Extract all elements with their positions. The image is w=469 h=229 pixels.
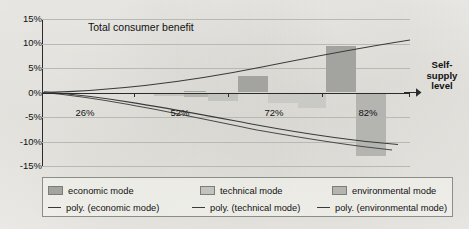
legend-label: technical mode: [220, 186, 283, 196]
legend-line-icon: [48, 204, 61, 211]
gridline: [42, 166, 410, 167]
legend-item-technical-mode[interactable]: technical mode: [200, 182, 332, 199]
legend-row-trendlines: poly. (economic mode) poly. (technical m…: [48, 199, 447, 216]
legend-label: poly. (economic mode): [66, 203, 159, 213]
y-tick-label: -15%: [2, 161, 42, 171]
x-axis-tick: [134, 93, 135, 97]
legend-item-poly-economic-mode[interactable]: poly. (economic mode): [48, 199, 192, 216]
axis-title-line-3: level: [417, 81, 467, 92]
legend-label: environmental mode: [352, 186, 436, 196]
x-tick-label-72: 72%: [264, 108, 283, 118]
y-tick-label: 10%: [2, 38, 42, 48]
x-axis-tick: [322, 93, 323, 97]
chart-title: Total consumer benefit: [88, 22, 194, 33]
plot-area: Total consumer benefit: [42, 19, 410, 166]
legend-label: poly. (technical mode): [210, 203, 300, 213]
trendline-economic: [42, 40, 410, 93]
axis-title-line-1: Self-: [417, 60, 467, 71]
trendline-environmental: [44, 93, 392, 150]
zero-baseline: [42, 93, 410, 94]
legend-line-icon: [317, 204, 330, 211]
legend-label: poly. (environmental mode): [335, 203, 447, 213]
legend-item-poly-environmental-mode[interactable]: poly. (environmental mode): [317, 199, 447, 216]
x-tick-label-26: 26%: [75, 108, 94, 118]
chart-legend: economic mode technical mode environment…: [42, 177, 453, 217]
legend-swatch-icon: [48, 186, 63, 195]
legend-item-environmental-mode[interactable]: environmental mode: [332, 182, 436, 199]
legend-row-bars: economic mode technical mode environment…: [48, 182, 447, 199]
legend-line-icon: [192, 204, 205, 211]
x-tick-label-82: 82%: [358, 108, 377, 118]
legend-swatch-icon: [332, 186, 347, 195]
legend-item-economic-mode[interactable]: economic mode: [48, 182, 200, 199]
y-tick-label: -10%: [2, 137, 42, 147]
y-tick-label: 5%: [2, 63, 42, 73]
legend-item-poly-technical-mode[interactable]: poly. (technical mode): [192, 199, 317, 216]
x-axis-title: Self- supply level: [417, 60, 467, 92]
y-tick-label: -5%: [2, 112, 42, 122]
y-tick-label: 15%: [2, 14, 42, 24]
x-axis-tick: [228, 93, 229, 97]
y-axis-tick-labels: 15% 10% 5% 0% -5% -10% -15%: [0, 0, 42, 229]
x-tick-label-52: 52%: [170, 108, 189, 118]
y-tick-label: 0%: [2, 88, 42, 98]
legend-swatch-icon: [200, 186, 215, 195]
consumer-benefit-chart: 15% 10% 5% 0% -5% -10% -15%: [0, 0, 469, 229]
legend-label: economic mode: [68, 186, 134, 196]
